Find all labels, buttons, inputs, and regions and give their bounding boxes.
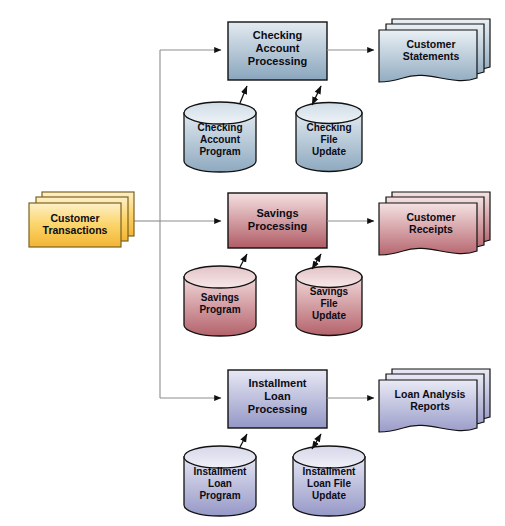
row-installment-loan: [184, 369, 490, 516]
row-savings: [184, 192, 490, 336]
cylinder-savings-file-update[interactable]: [296, 267, 362, 336]
row-checking: [184, 19, 490, 172]
cylinder-savings-program[interactable]: [184, 266, 256, 336]
arrows-checking: [240, 86, 321, 105]
process-box-checking[interactable]: [228, 22, 327, 80]
flowchart-canvas: Customer Transactions Checking Account P…: [0, 0, 505, 526]
cylinder-installment-loan-program[interactable]: [184, 446, 256, 516]
source-customer-transactions[interactable]: [29, 192, 134, 247]
document-customer-receipts[interactable]: [379, 192, 490, 255]
arrows-savings: [240, 254, 321, 269]
process-box-installment-loan[interactable]: [228, 370, 327, 428]
arrows-installment-loan: [240, 434, 321, 449]
cylinder-checking-account-program[interactable]: [184, 102, 256, 172]
cylinder-installment-loan-file-update[interactable]: [293, 446, 365, 516]
cylinder-checking-file-update[interactable]: [296, 103, 362, 172]
flowchart-shapes: [0, 0, 505, 526]
process-box-savings[interactable]: [228, 193, 327, 248]
document-loan-analysis-reports[interactable]: [379, 369, 490, 432]
document-customer-statements[interactable]: [379, 19, 490, 82]
